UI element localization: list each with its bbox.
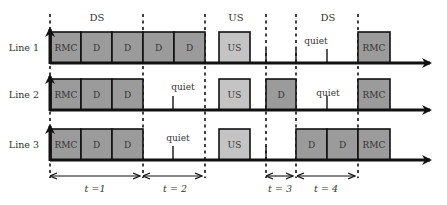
svg-text:D: D — [124, 43, 131, 53]
line-label: Line 3 — [9, 139, 39, 150]
block-rmc: RMC — [51, 32, 81, 63]
block-rmc: RMC — [358, 79, 390, 110]
interval-label: t = 3 — [268, 183, 292, 194]
block-d: D — [266, 79, 296, 110]
block-d: D — [81, 32, 112, 63]
block-d: D — [112, 32, 143, 63]
header-labels: DSUSDS — [90, 12, 336, 23]
timing-diagram: DSUSDS RMCDDDDUSRMCquietLine 1RMCDDUSDRM… — [0, 0, 447, 205]
header-label-ds2: DS — [321, 12, 336, 23]
interval-t2: t = 2 — [144, 176, 202, 194]
interval-t3: t = 3 — [267, 176, 293, 194]
svg-text:D: D — [339, 140, 346, 150]
block-us: US — [219, 79, 250, 110]
svg-text:D: D — [308, 140, 315, 150]
svg-text:US: US — [228, 140, 242, 150]
quiet-label: quiet — [171, 82, 195, 92]
svg-text:D: D — [186, 43, 193, 53]
svg-text:RMC: RMC — [363, 90, 386, 100]
block-rmc: RMC — [358, 129, 390, 160]
block-us: US — [219, 129, 250, 160]
svg-text:US: US — [228, 90, 242, 100]
block-d: D — [174, 32, 205, 63]
block-d: D — [296, 129, 327, 160]
line-label: Line 1 — [9, 42, 39, 53]
block-d: D — [112, 79, 143, 110]
interval-label: t = 4 — [314, 183, 338, 194]
line-row-2: RMCDDUSDRMCquietquietLine 2 — [9, 76, 430, 111]
svg-text:RMC: RMC — [363, 43, 386, 53]
block-rmc: RMC — [51, 79, 81, 110]
svg-text:D: D — [124, 90, 131, 100]
interval-t4: t = 4 — [298, 176, 355, 194]
interval-markers: t =1t = 2t = 3t = 4 — [51, 176, 355, 194]
header-label-us: US — [228, 12, 243, 23]
header-label-ds1: DS — [90, 12, 105, 23]
block-rmc: RMC — [358, 32, 390, 63]
block-d: D — [143, 32, 174, 63]
block-d: D — [81, 129, 112, 160]
block-d: D — [327, 129, 358, 160]
block-d: D — [81, 79, 112, 110]
svg-text:D: D — [155, 43, 162, 53]
block-d: D — [112, 129, 143, 160]
interval-label: t = 2 — [163, 183, 187, 194]
svg-text:RMC: RMC — [55, 43, 78, 53]
line-row-3: RMCDDUSDDRMCquietLine 3 — [9, 126, 430, 161]
svg-text:RMC: RMC — [363, 140, 386, 150]
svg-text:D: D — [277, 90, 284, 100]
block-rmc: RMC — [51, 129, 81, 160]
line-row-1: RMCDDDDUSRMCquietLine 1 — [9, 29, 430, 64]
svg-text:D: D — [93, 90, 100, 100]
quiet-label: quiet — [316, 88, 340, 98]
quiet-label: quiet — [304, 36, 328, 46]
svg-text:RMC: RMC — [55, 140, 78, 150]
line-rows: RMCDDDDUSRMCquietLine 1RMCDDUSDRMCquietq… — [9, 29, 430, 161]
svg-text:D: D — [93, 43, 100, 53]
svg-text:D: D — [93, 140, 100, 150]
interval-t1: t =1 — [51, 176, 140, 194]
line-label: Line 2 — [9, 89, 39, 100]
block-us: US — [219, 32, 250, 63]
quiet-label: quiet — [166, 133, 190, 143]
svg-text:D: D — [124, 140, 131, 150]
svg-text:US: US — [228, 43, 242, 53]
interval-label: t =1 — [85, 183, 106, 194]
svg-text:RMC: RMC — [55, 90, 78, 100]
